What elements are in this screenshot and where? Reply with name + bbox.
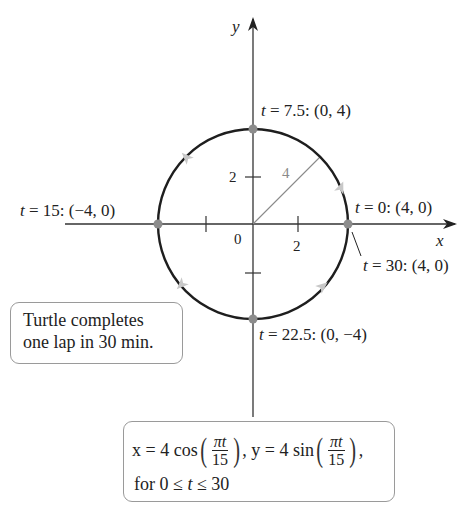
radius-label: 4 <box>282 165 290 181</box>
label-text: = 15: (−4, 0) <box>25 201 115 220</box>
leader-line-t30 <box>352 232 361 256</box>
origin-label: 0 <box>234 231 242 247</box>
domain-line: for 0 ≤ t ≤ 30 <box>132 472 394 496</box>
point-t22_5 <box>249 315 258 324</box>
point-t15 <box>154 220 163 229</box>
turtle-note-line1: Turtle completes <box>23 309 182 331</box>
domain-for: for 0 ≤ <box>134 474 187 494</box>
y-equation: , y = 4 sin <box>242 438 314 462</box>
y-tick-label-2: 2 <box>229 169 237 185</box>
parametric-equation: x = 4 cos ( πt 15 ) , y = 4 sin ( πt 15 … <box>132 428 394 472</box>
fraction-numerator: πt <box>212 433 228 451</box>
equation-box: x = 4 cos ( πt 15 ) , y = 4 sin ( πt 15 … <box>123 421 395 502</box>
fraction: πt 15 <box>210 433 230 468</box>
label-text: = 0: (4, 0) <box>360 198 432 217</box>
left-paren: ( <box>200 433 207 467</box>
turtle-note-line2: one lap in 30 min. <box>23 331 182 353</box>
x-tick-label-2: 2 <box>293 238 301 254</box>
point-t7_5 <box>249 125 258 134</box>
label-t15: t = 15: (−4, 0) <box>20 201 115 220</box>
label-t22_5: t = 22.5: (0, −4) <box>259 325 367 344</box>
direction-arrow-icon <box>334 180 348 195</box>
label-t30: t = 30: (4, 0) <box>363 256 449 275</box>
fraction-denominator: 15 <box>210 451 230 468</box>
x-equation: x = 4 cos <box>132 438 198 462</box>
domain-end: ≤ 30 <box>192 474 229 494</box>
turtle-note-box: Turtle completes one lap in 30 min. <box>10 302 183 364</box>
label-t7_5: t = 7.5: (0, 4) <box>261 101 351 120</box>
point-t0 <box>344 220 353 229</box>
label-text: = 30: (4, 0) <box>368 256 449 275</box>
left-paren: ( <box>316 433 323 467</box>
label-text: = 7.5: (0, 4) <box>266 101 351 120</box>
y-axis-label: y <box>230 17 240 36</box>
right-paren: ) <box>233 433 240 467</box>
fraction: πt 15 <box>326 433 346 468</box>
label-t0: t = 0: (4, 0) <box>355 198 432 217</box>
label-text: = 22.5: (0, −4) <box>264 325 367 344</box>
x-axis-label: x <box>435 231 444 250</box>
fraction-denominator: 15 <box>326 451 346 468</box>
equation-comma: , <box>359 438 364 462</box>
right-paren: ) <box>350 433 357 467</box>
fraction-numerator: πt <box>328 433 344 451</box>
